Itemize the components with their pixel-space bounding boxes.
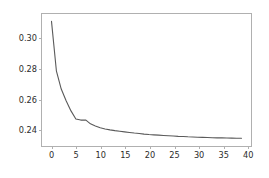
x-tick-label: 35 — [219, 151, 229, 159]
x-tick-label: 15 — [120, 151, 130, 159]
x-tick-mark — [76, 146, 77, 149]
y-tick-label: 0.24 — [19, 126, 37, 134]
x-tick-label: 10 — [96, 151, 106, 159]
x-tick-mark — [101, 146, 102, 149]
y-tick-mark — [39, 100, 42, 101]
y-tick-mark — [39, 130, 42, 131]
plot-axes: 0.240.260.280.30 0510152025303540 — [41, 13, 252, 147]
x-tick-label: 20 — [145, 151, 155, 159]
figure-canvas: 0.240.260.280.30 0510152025303540 — [0, 0, 269, 178]
data-series-line — [51, 21, 241, 138]
y-tick-mark — [39, 38, 42, 39]
x-tick-mark — [52, 146, 53, 149]
x-tick-label: 30 — [194, 151, 204, 159]
y-tick-label: 0.30 — [19, 34, 37, 42]
x-tick-mark — [224, 146, 225, 149]
x-tick-label: 5 — [74, 151, 79, 159]
x-tick-mark — [150, 146, 151, 149]
x-tick-mark — [175, 146, 176, 149]
y-tick-label: 0.26 — [19, 95, 37, 103]
x-tick-mark — [125, 146, 126, 149]
y-tick-mark — [39, 69, 42, 70]
line-chart-svg — [42, 14, 251, 146]
x-tick-label: 0 — [49, 151, 54, 159]
y-tick-label: 0.28 — [19, 65, 37, 73]
x-tick-mark — [199, 146, 200, 149]
x-tick-label: 25 — [169, 151, 179, 159]
x-tick-label: 40 — [243, 151, 253, 159]
x-tick-mark — [248, 146, 249, 149]
